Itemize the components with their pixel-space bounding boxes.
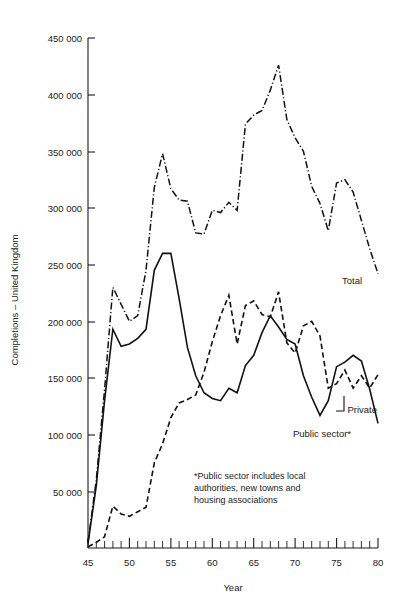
y-tick-label-100000: 100 000 <box>48 430 82 441</box>
y-tick-label-50000: 50 000 <box>53 487 82 498</box>
y-tick-label-350000: 350 000 <box>48 147 82 158</box>
y-tick-label-400000: 400 000 <box>48 90 82 101</box>
series-label-public-sector: Public sector* <box>293 428 351 439</box>
y-tick-label-200000: 200 000 <box>48 317 82 328</box>
footnote-line-1: *Public sector includes local <box>194 471 306 481</box>
x-tick-label-60: 60 <box>207 557 218 568</box>
y-axis-ticks <box>88 38 95 492</box>
x-tick-label-65: 65 <box>248 557 259 568</box>
line-chart-svg: 450 000 400 000 350 000 300 000 250 000 … <box>0 0 406 605</box>
x-tick-label-45: 45 <box>83 557 94 568</box>
x-tick-label-75: 75 <box>331 557 342 568</box>
y-axis-title: Completions – United Kingdom <box>9 234 20 365</box>
footnote-line-3: housing associations <box>194 495 278 505</box>
y-tick-label-450000: 450 000 <box>48 33 82 44</box>
chart-container: 450 000 400 000 350 000 300 000 250 000 … <box>0 0 406 605</box>
x-tick-label-80: 80 <box>373 557 384 568</box>
series-line-private <box>88 292 378 547</box>
x-axis-major-ticks <box>88 538 378 548</box>
x-tick-label-50: 50 <box>124 557 135 568</box>
public-sector-footnote: *Public sector includes local authoritie… <box>194 471 306 505</box>
private-label-leader-line <box>336 396 344 411</box>
y-tick-label-250000: 250 000 <box>48 260 82 271</box>
y-tick-label-150000: 150 000 <box>48 373 82 384</box>
footnote-line-2: authorities, new towns and <box>194 483 301 493</box>
x-axis-title: Year <box>223 582 242 593</box>
y-tick-label-300000: 300 000 <box>48 203 82 214</box>
series-label-private: Private <box>347 404 377 415</box>
x-axis-minor-ticks <box>96 541 369 548</box>
series-label-total: Total <box>342 275 362 286</box>
x-tick-label-70: 70 <box>290 557 301 568</box>
x-tick-label-55: 55 <box>166 557 177 568</box>
